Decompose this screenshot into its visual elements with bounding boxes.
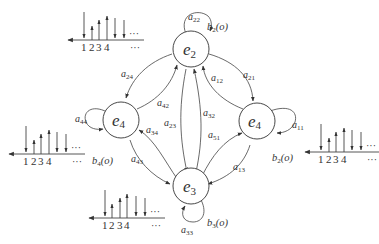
ellipsis: ···: [129, 28, 139, 39]
spectrum-top-left: ··· 1 2 3 4 ···: [68, 12, 144, 53]
hmm-diagram: e2 e4 e4 e3 a22 a24 a42 a21 a12 a23 a32 …: [0, 0, 379, 244]
edge-a23: [181, 69, 187, 172]
tick: 4: [104, 41, 110, 53]
tick: 2: [31, 155, 37, 167]
edge-a32: [194, 69, 201, 172]
ellipsis: ···: [130, 42, 140, 53]
label-a42: a42: [157, 97, 170, 110]
label-b4o: b4(o): [92, 155, 113, 168]
label-b2o-top: b2(o): [207, 21, 228, 34]
label-a34: a34: [146, 124, 159, 137]
label-a51: a51: [208, 129, 221, 142]
tick: 1: [81, 41, 87, 53]
ellipsis: ···: [150, 206, 160, 217]
tick: 4: [341, 153, 347, 165]
edge-a34: [139, 130, 178, 180]
label-a13: a13: [233, 161, 246, 174]
tick: 4: [124, 219, 130, 231]
tick: 3: [117, 219, 123, 231]
label-a11: a11: [292, 119, 304, 132]
spectrum-bottom: ··· 1 2 3 4 ···: [89, 190, 165, 231]
tick: 3: [38, 155, 44, 167]
tick: 2: [109, 219, 115, 231]
tick: 2: [89, 41, 95, 53]
tick: 2: [326, 153, 332, 165]
node-e3-bottom: e3: [173, 168, 209, 204]
label-a24: a24: [121, 68, 134, 81]
tick: 4: [46, 155, 52, 167]
edge-a12: [203, 66, 243, 109]
tick: 1: [102, 219, 108, 231]
node-e4-right: e4: [239, 103, 275, 139]
tick: 1: [23, 155, 29, 167]
tick: 3: [333, 153, 339, 165]
node-e4-left: e4: [103, 102, 139, 138]
label-a21: a21: [243, 69, 256, 82]
tick: 3: [96, 41, 102, 53]
ellipsis: ···: [367, 154, 377, 165]
node-e2-top: e2: [173, 31, 209, 67]
label-a12: a12: [211, 72, 224, 85]
label-a43: a43: [131, 153, 144, 166]
tick: 1: [318, 153, 324, 165]
edge-a13: [208, 145, 250, 184]
label-a32: a32: [203, 107, 216, 120]
spectrum-right: ··· 1 2 3 4 ···: [305, 124, 379, 165]
label-a23: a23: [164, 117, 177, 130]
label-b2o-right: b2(o): [272, 152, 293, 165]
spectrum-left: ··· 1 2 3 4 ···: [9, 126, 85, 167]
ellipsis: ···: [366, 140, 376, 151]
ellipsis: ···: [72, 156, 82, 167]
ellipsis: ···: [151, 220, 161, 231]
label-a33: a33: [181, 224, 194, 237]
ellipsis: ···: [71, 142, 81, 153]
label-b3o: b3(o): [207, 217, 228, 230]
